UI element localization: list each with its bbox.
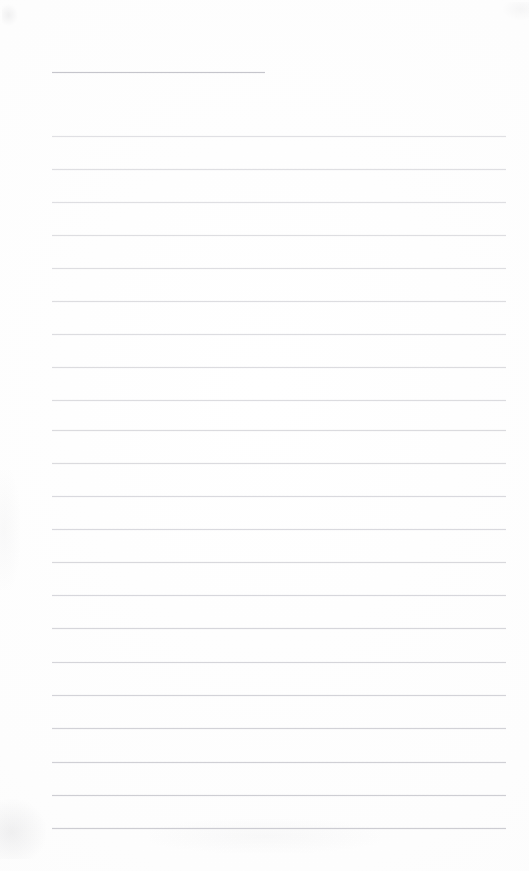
scanned-page — [0, 0, 529, 871]
paper-background — [0, 0, 529, 871]
ruled-line — [52, 136, 506, 137]
header-rule — [52, 72, 265, 73]
ruled-line — [52, 762, 506, 763]
ruled-line — [52, 695, 506, 696]
ruled-line — [52, 301, 506, 302]
ruled-line — [52, 728, 506, 729]
ruled-line — [52, 795, 506, 796]
ruled-line — [52, 463, 506, 464]
ruled-line — [52, 662, 506, 663]
ruled-line — [52, 202, 506, 203]
ruled-line — [52, 367, 506, 368]
ruled-line — [52, 430, 506, 431]
ruled-line — [52, 562, 506, 563]
ruled-line — [52, 496, 506, 497]
ruled-line — [52, 529, 506, 530]
ruled-line — [52, 334, 506, 335]
ruled-line — [52, 235, 506, 236]
ruled-line — [52, 828, 506, 829]
ruled-line — [52, 595, 506, 596]
ruled-line — [52, 400, 506, 401]
ruled-line — [52, 628, 506, 629]
ruled-line — [52, 268, 506, 269]
ruled-line — [52, 169, 506, 170]
